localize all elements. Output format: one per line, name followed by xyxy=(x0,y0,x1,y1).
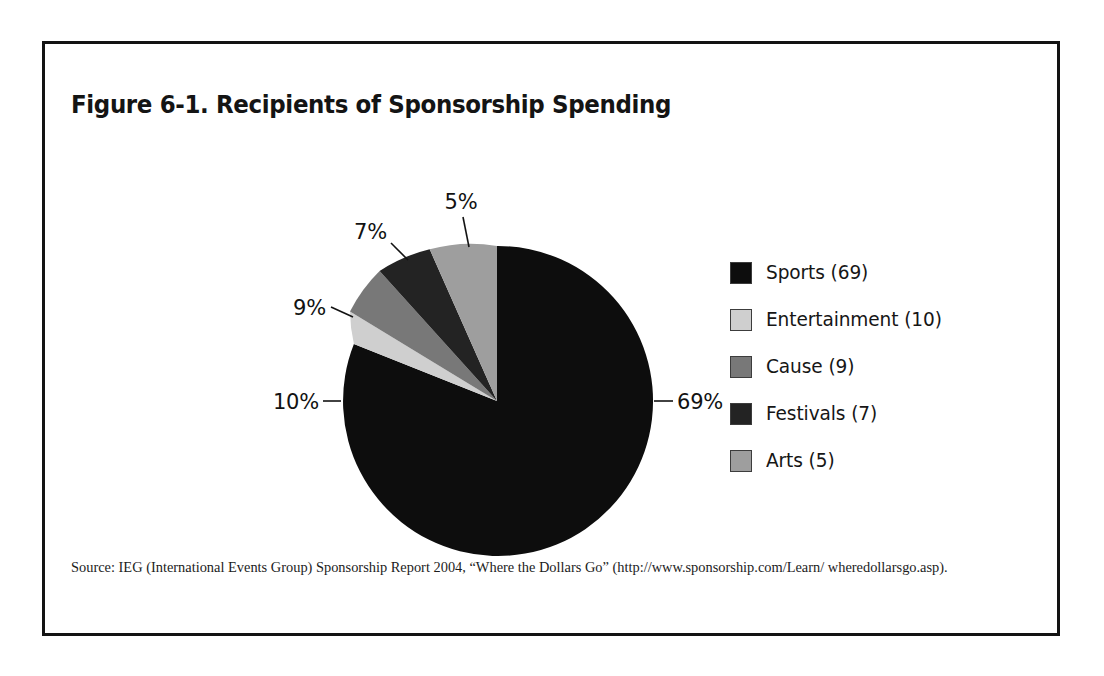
figure-frame: Figure 6-1. Recipients of Sponsorship Sp… xyxy=(42,41,1060,636)
leader-line-cause xyxy=(331,307,353,317)
legend-label-sports: Sports (69) xyxy=(766,261,868,284)
legend-item-cause: Cause (9) xyxy=(730,343,1040,390)
legend-label-arts: Arts (5) xyxy=(766,449,835,472)
legend-swatch-entertainment xyxy=(730,309,752,331)
source-note: Source: IEG (International Events Group)… xyxy=(71,556,1026,580)
legend-item-festivals: Festivals (7) xyxy=(730,390,1040,437)
legend-swatch-arts xyxy=(730,450,752,472)
pie-chart-svg: 69% 10% 9% 7% 5% xyxy=(195,139,735,539)
legend-label-festivals: Festivals (7) xyxy=(766,402,877,425)
legend-item-entertainment: Entertainment (10) xyxy=(730,296,1040,343)
legend-label-entertainment: Entertainment (10) xyxy=(766,308,942,331)
pie-chart: 69% 10% 9% 7% 5% Sports (69) Entertainme… xyxy=(45,44,1063,552)
legend-swatch-cause xyxy=(730,356,752,378)
chart-legend: Sports (69) Entertainment (10) Cause (9)… xyxy=(730,249,1040,484)
legend-label-cause: Cause (9) xyxy=(766,355,854,378)
pct-label-festivals: 7% xyxy=(354,220,387,244)
leader-line-festivals xyxy=(391,243,408,260)
pct-label-arts: 5% xyxy=(445,190,478,214)
pct-label-sports: 69% xyxy=(677,390,723,414)
legend-swatch-festivals xyxy=(730,403,752,425)
pct-label-entertainment: 10% xyxy=(273,390,319,414)
leader-line-arts xyxy=(463,217,469,247)
legend-item-arts: Arts (5) xyxy=(730,437,1040,484)
legend-item-sports: Sports (69) xyxy=(730,249,1040,296)
legend-swatch-sports xyxy=(730,262,752,284)
pct-label-cause: 9% xyxy=(293,296,326,320)
